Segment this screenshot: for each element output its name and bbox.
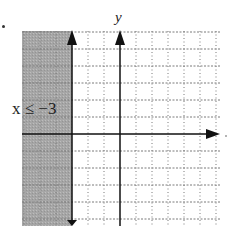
axis-end-dot <box>225 135 227 137</box>
y-axis <box>115 30 125 226</box>
shaded-region <box>22 31 72 226</box>
inequality-label: x ≤ −3 <box>12 99 56 119</box>
inequality-graph: y x ≤ −3 <box>0 0 227 226</box>
x-axis-arrow-icon <box>206 129 220 139</box>
problem-bullet <box>2 25 5 28</box>
y-axis-label: y <box>115 9 122 26</box>
